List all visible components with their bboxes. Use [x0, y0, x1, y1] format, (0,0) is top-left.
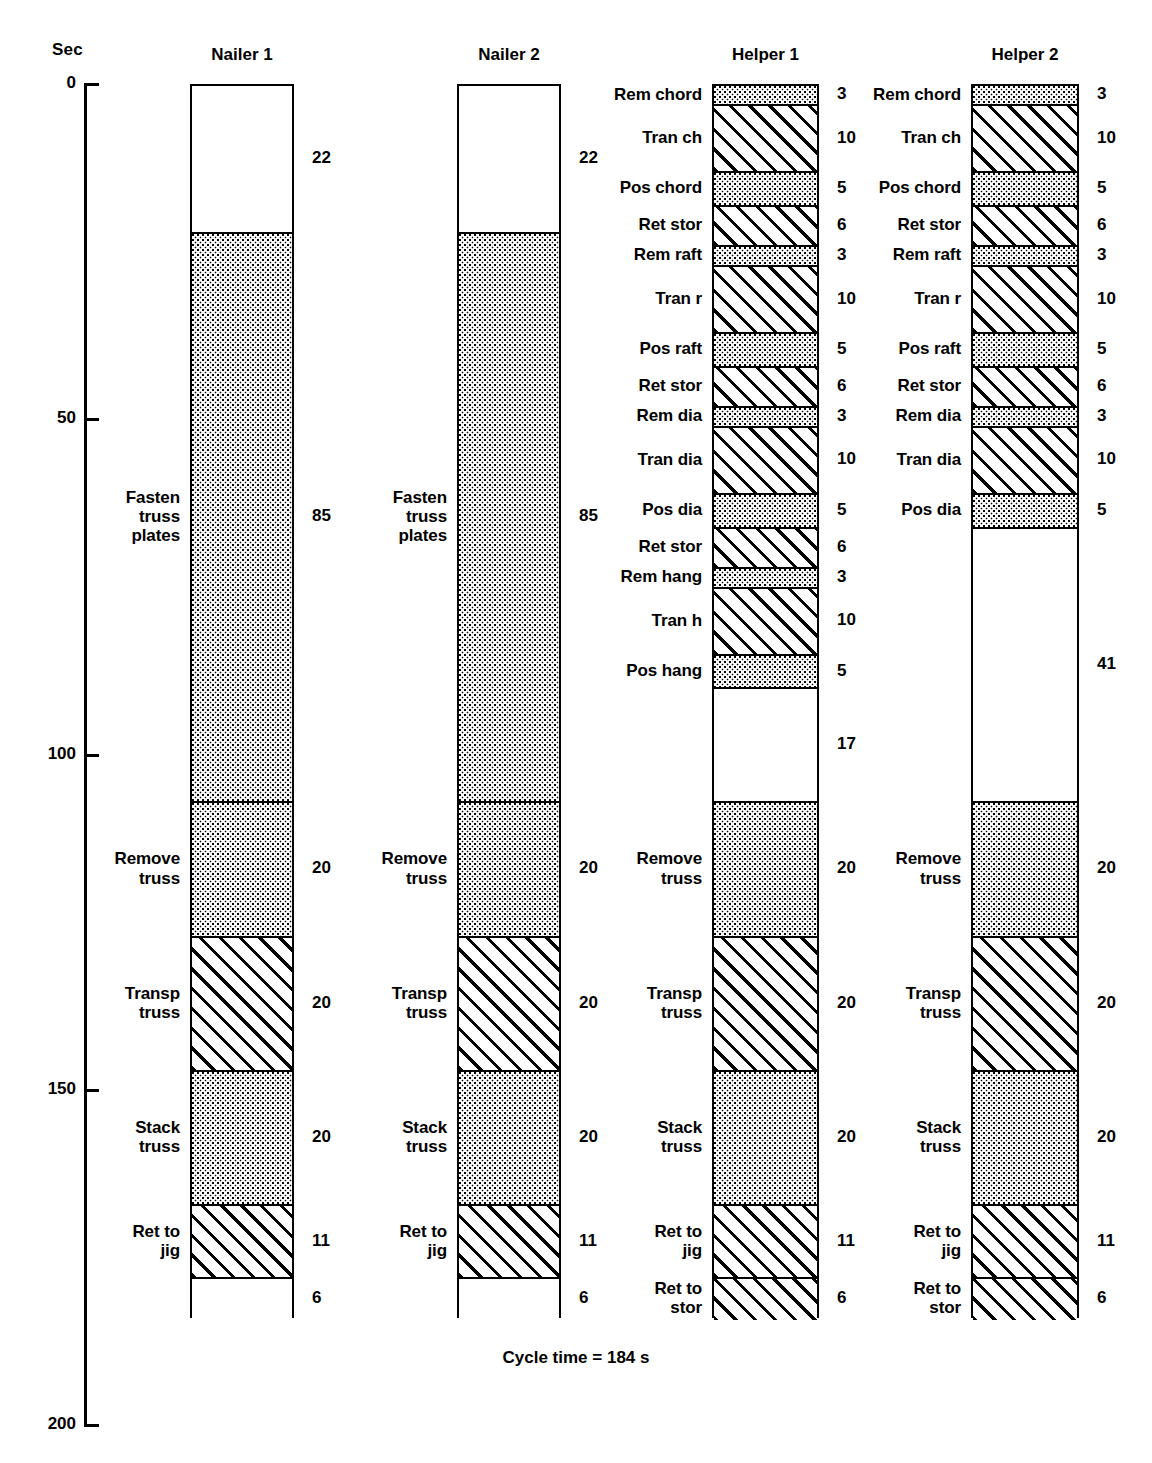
segment-rem-raft [973, 247, 1077, 267]
y-axis-tick [84, 1424, 99, 1427]
segment-label: Transp truss [532, 984, 702, 1022]
segment-value: 41 [1097, 654, 1116, 674]
segment-value: 3 [1097, 406, 1106, 426]
segment-label: Rem raft [791, 245, 961, 264]
segment-label: Ret to jig [791, 1222, 961, 1260]
segment-pos-chord [973, 173, 1077, 207]
y-axis-tick-label: 100 [10, 744, 76, 764]
crew-balance-chart: Sec 050100150200 Nailer 122Fasten truss … [0, 0, 1152, 1463]
segment-label: Tran dia [532, 450, 702, 469]
segment-value: 20 [1097, 993, 1116, 1013]
segment-value: 5 [837, 661, 846, 681]
segment-value: 5 [1097, 339, 1106, 359]
segment-value: 22 [579, 148, 598, 168]
segment-idle [714, 689, 817, 803]
y-axis-tick-label: 200 [10, 1414, 76, 1434]
segment-idle [973, 529, 1077, 804]
segment-value: 6 [1097, 376, 1106, 396]
segment-label: Transp truss [277, 984, 447, 1022]
segment-value: 6 [312, 1288, 321, 1308]
segment-value: 17 [837, 734, 856, 754]
segment-label: Rem dia [791, 406, 961, 425]
segment-rem-chord [973, 86, 1077, 106]
segment-label: Pos chord [532, 178, 702, 197]
segment-ret-to-jig [973, 1206, 1077, 1280]
segment-value: 3 [1097, 84, 1106, 104]
segment-value: 6 [837, 537, 846, 557]
column-header-helper-1: Helper 1 [652, 45, 879, 65]
segment-label: Rem raft [532, 245, 702, 264]
segment-label: Pos dia [532, 500, 702, 519]
segment-label: Stack truss [532, 1118, 702, 1156]
segment-value: 10 [837, 610, 856, 630]
segment-transp-truss [973, 938, 1077, 1072]
segment-tran-dia [973, 428, 1077, 495]
segment-label: Tran ch [791, 128, 961, 147]
segment-label: Tran r [532, 289, 702, 308]
segment-label: Ret stor [791, 376, 961, 395]
segment-pos-hang [714, 656, 817, 690]
segment-value: 10 [1097, 289, 1116, 309]
segment-label: Ret stor [532, 215, 702, 234]
segment-value: 22 [312, 148, 331, 168]
segment-value: 20 [1097, 858, 1116, 878]
segment-label: Pos raft [791, 339, 961, 358]
segment-label: Remove truss [10, 849, 180, 887]
segment-tran-ch [973, 106, 1077, 173]
segment-label: Stack truss [791, 1118, 961, 1156]
segment-label: Transp truss [10, 984, 180, 1022]
segment-value: 3 [837, 567, 846, 587]
segment-label: Tran r [791, 289, 961, 308]
segment-label: Tran dia [791, 450, 961, 469]
segment-pos-dia [973, 495, 1077, 529]
segment-value: 11 [1097, 1231, 1115, 1251]
segment-idle [459, 86, 559, 234]
segment-label: Ret stor [532, 376, 702, 395]
segment-label: Ret to jig [532, 1222, 702, 1260]
segment-label: Ret stor [532, 537, 702, 556]
segment-remove-truss [973, 803, 1077, 937]
segment-label: Tran h [532, 611, 702, 630]
segment-label: Rem chord [532, 85, 702, 104]
segment-value: 10 [1097, 128, 1116, 148]
y-axis-tick [84, 754, 99, 757]
segment-rem-dia [973, 408, 1077, 428]
segment-label: Ret to jig [10, 1222, 180, 1260]
segment-label: Ret to stor [532, 1279, 702, 1317]
segment-pos-raft [973, 334, 1077, 368]
column-header-nailer-1: Nailer 1 [130, 45, 354, 65]
segment-value: 3 [1097, 245, 1106, 265]
segment-label: Remove truss [532, 849, 702, 887]
y-axis-tick-label: 150 [10, 1079, 76, 1099]
segment-label: Transp truss [791, 984, 961, 1022]
segment-idle [192, 86, 292, 234]
segment-label: Rem hang [532, 567, 702, 586]
segment-label: Ret to jig [277, 1222, 447, 1260]
segment-value: 20 [1097, 1127, 1116, 1147]
segment-ret-stor [973, 368, 1077, 408]
segment-ret-to-stor [973, 1279, 1077, 1319]
column-header-nailer-2: Nailer 2 [397, 45, 621, 65]
y-axis-tick-label: 50 [10, 408, 76, 428]
y-axis-tick [84, 418, 99, 421]
segment-label: Fasten truss plates [277, 488, 447, 545]
cycle-time-note: Cycle time = 184 s [0, 1348, 1152, 1368]
segment-label: Stack truss [10, 1118, 180, 1156]
y-axis-tick-label: 0 [10, 73, 76, 93]
segment-label: Tran ch [532, 128, 702, 147]
segment-stack-truss [973, 1072, 1077, 1206]
segment-label: Pos hang [532, 661, 702, 680]
segment-label: Pos raft [532, 339, 702, 358]
segment-label: Remove truss [277, 849, 447, 887]
y-axis-tick [84, 1089, 99, 1092]
segment-value: 5 [1097, 500, 1106, 520]
segment-idle [192, 1279, 292, 1319]
column-header-helper-2: Helper 2 [911, 45, 1139, 65]
segment-label: Rem chord [791, 85, 961, 104]
segment-label: Fasten truss plates [10, 488, 180, 545]
segment-tran-h [714, 589, 817, 656]
segment-label: Pos dia [791, 500, 961, 519]
segment-label: Rem dia [532, 406, 702, 425]
segment-value: 6 [1097, 1288, 1106, 1308]
segment-value: 10 [1097, 449, 1116, 469]
